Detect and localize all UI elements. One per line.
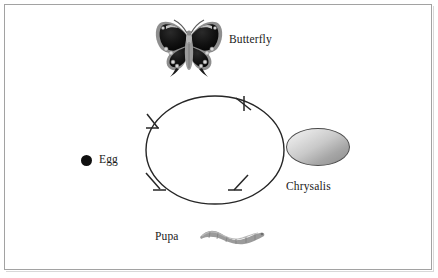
caterpillar-head (261, 233, 264, 236)
chrysalis-icon (286, 128, 350, 166)
butterfly-icon (152, 16, 226, 78)
label-egg: Egg (99, 153, 118, 165)
life-cycle-arrow-ellipse (136, 92, 294, 208)
label-butterfly: Butterfly (229, 33, 272, 45)
butterfly-head (187, 30, 192, 35)
egg-dot-icon (81, 155, 92, 166)
cycle-ellipse-path (146, 96, 284, 204)
cycle-arrowhead-bottom-right (228, 175, 248, 190)
label-pupa: Pupa (155, 230, 179, 242)
butterfly-life-cycle-diagram: Butterfly Egg Chrysalis Pupa (0, 0, 438, 278)
cycle-arrowhead-bottom-left (146, 173, 166, 190)
label-chrysalis: Chrysalis (286, 180, 331, 192)
caterpillar-icon (198, 226, 266, 248)
